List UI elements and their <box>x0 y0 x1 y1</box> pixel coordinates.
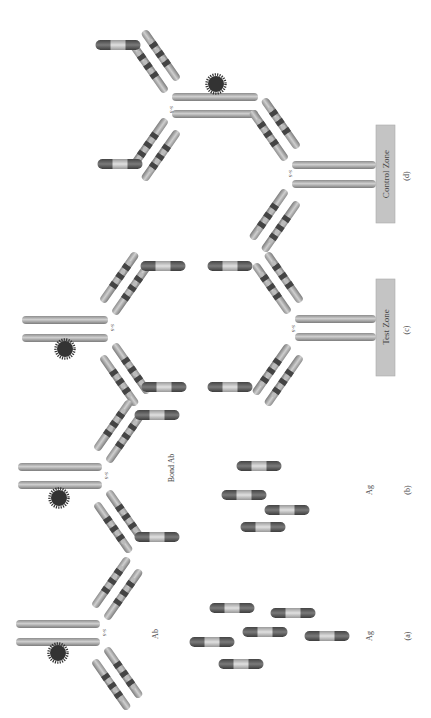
antigen-label-b: Ag <box>365 485 374 495</box>
label-particle-icon <box>56 340 75 359</box>
panel-label-a: (a) <box>403 631 412 640</box>
immunoassay-diagram: S-S S-S S-S S-S <box>0 0 431 718</box>
free-antigens <box>190 603 350 669</box>
free-antigens <box>222 461 310 532</box>
antibody: S-S <box>16 556 144 712</box>
svg-text:S-S: S-S <box>169 106 174 113</box>
bond-ab-label: Bond Ab <box>167 454 176 483</box>
panel-label-c: (c) <box>402 325 411 334</box>
panel-d: S-S S-S Control Zone (d) <box>96 29 412 254</box>
bound-antibody: S-S <box>18 399 180 555</box>
svg-text:S-S: S-S <box>291 325 296 332</box>
label-particle-icon <box>49 644 68 663</box>
control-zone-label: Control Zone <box>381 150 391 198</box>
panel-a: S-S Ab Ag (a) <box>16 556 412 712</box>
ab-label: Ab <box>151 629 160 639</box>
antigen-label-a: Ag <box>365 631 374 641</box>
test-zone-label: Test Zone <box>381 309 391 345</box>
panel-b: S-S Bond Ab Ag (b) <box>18 399 412 555</box>
svg-text:S-S: S-S <box>288 170 293 177</box>
label-particle-icon <box>50 489 69 508</box>
panel-c: S-S S-S Test Zone (c) <box>22 251 411 408</box>
label-particle-icon <box>207 75 226 94</box>
capture-antibody-test: S-S <box>208 251 377 408</box>
antibody-with-label: S-S <box>96 29 259 183</box>
svg-text:S-S: S-S <box>110 324 115 331</box>
capture-antibody-control: S-S <box>248 97 376 254</box>
panel-label-d: (d) <box>402 171 411 181</box>
svg-text:S-S: S-S <box>102 629 107 636</box>
panel-label-b: (b) <box>403 485 412 495</box>
svg-text:S-S: S-S <box>104 472 109 479</box>
antibody-with-label: S-S <box>22 251 187 408</box>
